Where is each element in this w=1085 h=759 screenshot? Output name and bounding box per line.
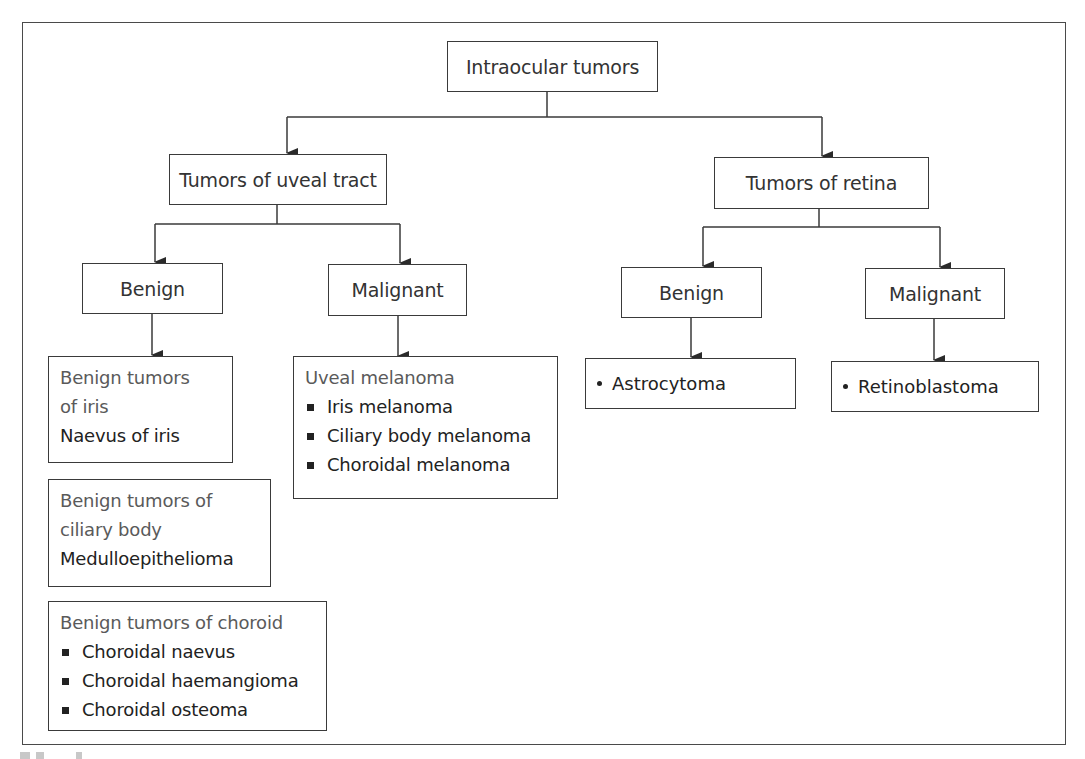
node-tumors-uveal-tract: Tumors of uveal tract bbox=[169, 154, 387, 205]
list-item: Ciliary body melanoma bbox=[305, 421, 557, 450]
node-uveal-benign: Benign bbox=[82, 263, 223, 314]
bullet-icon bbox=[597, 381, 602, 386]
node-intraocular-tumors: Intraocular tumors bbox=[447, 41, 658, 92]
node-label: Tumors of uveal tract bbox=[179, 169, 377, 191]
bullet-icon bbox=[843, 384, 848, 389]
node-uveal-malignant: Malignant bbox=[328, 264, 467, 316]
box-benign-choroid: Benign tumors of choroid Choroidal naevu… bbox=[48, 601, 327, 731]
node-label: Tumors of retina bbox=[746, 172, 897, 194]
group-header: Benign tumors of bbox=[60, 486, 270, 515]
list-item: Choroidal melanoma bbox=[305, 450, 557, 479]
group-item: Naevus of iris bbox=[60, 421, 232, 450]
node-label: Malignant bbox=[351, 279, 443, 301]
box-uveal-melanoma: Uveal melanoma Iris melanoma Ciliary bod… bbox=[293, 356, 558, 499]
node-label: Intraocular tumors bbox=[466, 56, 639, 78]
group-header: Benign tumors bbox=[60, 363, 232, 392]
group-header: of iris bbox=[60, 392, 232, 421]
box-astrocytoma: Astrocytoma bbox=[585, 358, 796, 409]
cropped-caption-fragment bbox=[36, 752, 44, 759]
list-item: Retinoblastoma bbox=[858, 376, 999, 397]
box-benign-ciliary-body: Benign tumors of ciliary body Medulloepi… bbox=[48, 479, 271, 587]
list-item: Choroidal osteoma bbox=[60, 695, 326, 724]
group-item: Medulloepithelioma bbox=[60, 544, 270, 573]
list-item: Choroidal haemangioma bbox=[60, 666, 326, 695]
list-item: Astrocytoma bbox=[612, 373, 726, 394]
list-item: Choroidal naevus bbox=[60, 637, 326, 666]
group-header: ciliary body bbox=[60, 515, 270, 544]
node-retina-benign: Benign bbox=[621, 267, 762, 318]
item-list: Iris melanoma Ciliary body melanoma Chor… bbox=[305, 392, 557, 479]
cropped-caption-fragment bbox=[20, 752, 30, 759]
node-label: Malignant bbox=[889, 283, 981, 305]
item-list: Choroidal naevus Choroidal haemangioma C… bbox=[60, 637, 326, 724]
group-header: Benign tumors of choroid bbox=[60, 608, 326, 637]
box-retinoblastoma: Retinoblastoma bbox=[831, 361, 1039, 412]
group-header: Uveal melanoma bbox=[305, 363, 557, 392]
list-item: Iris melanoma bbox=[305, 392, 557, 421]
node-tumors-retina: Tumors of retina bbox=[714, 157, 929, 209]
cropped-caption-fragment bbox=[76, 752, 82, 759]
box-benign-iris: Benign tumors of iris Naevus of iris bbox=[48, 356, 233, 463]
node-label: Benign bbox=[120, 278, 185, 300]
node-retina-malignant: Malignant bbox=[865, 268, 1005, 319]
node-label: Benign bbox=[659, 282, 724, 304]
